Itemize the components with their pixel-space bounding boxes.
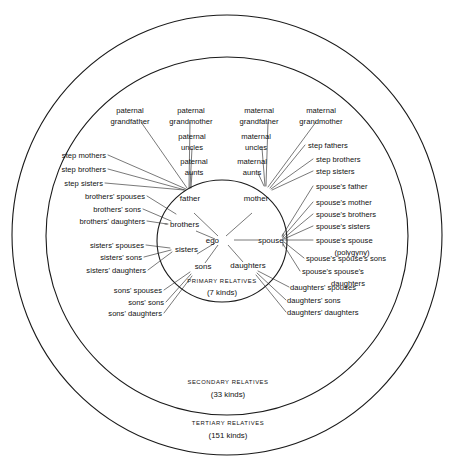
maternal-grandfather-line2: grandfather — [239, 117, 279, 126]
primary-ring-caption: PRIMARY RELATIVES (7 kinds) — [187, 278, 257, 297]
maternal-uncles-line1: maternal — [241, 132, 271, 141]
secondary-caption-count: (33 kinds) — [211, 390, 246, 399]
left-side-labels: step mothers step brothers step sisters … — [61, 151, 164, 318]
maternal-aunts-line1: maternal — [237, 157, 267, 166]
label-step-brothers-left: step brothers — [61, 165, 106, 174]
leader-brothers-sons — [143, 209, 171, 221]
leader-maternal-uncles — [262, 148, 265, 186]
label-sons-spouses: sons' spouses — [114, 286, 162, 295]
label-ssp-daughters-line1: spouse's spouse's — [302, 267, 364, 276]
label-sisters-spouses: sisters' spouses — [90, 241, 144, 250]
paternal-grandmother-line2: grandmother — [169, 117, 213, 126]
leader-brothers-spouses — [147, 196, 176, 214]
leader-maternal-grandmother — [268, 122, 316, 187]
label-sons-sons: sons' sons — [128, 298, 164, 307]
label-brothers-sons: brothers' sons — [93, 205, 141, 214]
paternal-uncles-line2: uncles — [181, 143, 203, 152]
label-spouse: spouse — [258, 236, 284, 245]
spoke-ego-mother — [226, 213, 252, 236]
kinship-svg: father mother brothers sisters sons daug… — [0, 0, 452, 468]
leader-spouses-sisters — [284, 226, 313, 239]
daughters-cluster-leaders — [256, 271, 289, 312]
label-daughters-daughters: daughters' daughters — [287, 308, 359, 317]
tertiary-caption-text: TERTIARY RELATIVES — [192, 420, 264, 426]
label-brothers: brothers — [170, 220, 199, 229]
paternal-grandfather-line2: grandfather — [110, 117, 150, 126]
primary-caption-text: PRIMARY RELATIVES — [187, 278, 257, 284]
label-step-brothers-right: step brothers — [316, 155, 361, 164]
label-mother: mother — [244, 194, 269, 203]
label-step-mothers: step mothers — [62, 151, 106, 160]
label-step-fathers: step fathers — [308, 141, 348, 150]
secondary-ring-caption: SECONDARY RELATIVES (33 kinds) — [187, 379, 268, 399]
label-spouses-sisters: spouse's sisters — [316, 222, 370, 231]
primary-labels: father mother brothers sisters sons daug… — [170, 194, 284, 271]
label-daughters: daughters — [230, 261, 265, 270]
primary-caption-count: (7 kinds) — [207, 288, 237, 297]
leader-spouses-mother — [283, 202, 313, 237]
label-step-sisters-left: step sisters — [64, 179, 103, 188]
leader-sisters-spouses — [146, 245, 170, 248]
label-ssp-sons: spouse's spouse's sons — [306, 254, 386, 263]
leader-daughters-sons — [257, 273, 286, 300]
tertiary-caption-count: (151 kinds) — [209, 431, 248, 440]
label-sisters-sons: sisters' sons — [100, 253, 142, 262]
label-daughters-spouses: daughters' spouses — [290, 283, 356, 292]
secondary-caption-text: SECONDARY RELATIVES — [187, 379, 268, 385]
label-sons-daughters: sons' daughters — [108, 309, 162, 318]
paternal-uncles-line1: paternal — [178, 132, 206, 141]
leader-spouses-father — [282, 186, 313, 236]
leader-brothers-daughters — [147, 221, 167, 224]
leader-daughters-spouses — [258, 271, 289, 287]
label-spouses-spouse: spouse's spouse — [316, 236, 373, 245]
label-daughters-sons: daughters' sons — [287, 296, 341, 305]
label-brothers-daughters: brothers' daughters — [79, 217, 145, 226]
paternal-grandfather-line1: paternal — [116, 106, 144, 115]
uncles-aunts-labels: paternal uncles maternal uncles paternal… — [178, 132, 271, 177]
spoke-ego-daughters — [228, 245, 243, 262]
maternal-grandmother-line2: grandmother — [299, 117, 343, 126]
label-sons: sons — [195, 262, 212, 271]
label-spouses-brothers: spouse's brothers — [316, 210, 376, 219]
label-spouses-father: spouse's father — [316, 182, 368, 191]
label-spouses-mother: spouse's mother — [316, 198, 372, 207]
maternal-uncles-line2: uncles — [245, 143, 267, 152]
kinship-diagram: father mother brothers sisters sons daug… — [0, 0, 452, 468]
paternal-aunts-line1: paternal — [180, 157, 208, 166]
tertiary-ring-caption: TERTIARY RELATIVES (151 kinds) — [192, 420, 264, 440]
label-sisters: sisters — [175, 245, 198, 254]
label-brothers-spouses: brothers' spouses — [85, 192, 145, 201]
paternal-grandmother-line1: paternal — [177, 106, 205, 115]
label-step-sisters-right: step sisters — [316, 167, 355, 176]
ego-spokes — [194, 213, 258, 263]
maternal-grandmother-line1: maternal — [306, 106, 336, 115]
paternal-aunts-line2: aunts — [185, 168, 204, 177]
right-side-labels: step fathers step brothers step sisters … — [287, 141, 386, 317]
maternal-aunts-line2: aunts — [243, 168, 262, 177]
grandparent-labels: paternal grandfather paternal grandmothe… — [110, 106, 343, 126]
label-father: father — [180, 194, 201, 203]
maternal-grandfather-line1: maternal — [244, 106, 274, 115]
label-ego: ego — [206, 236, 220, 245]
leader-step-fathers — [270, 145, 305, 188]
label-sisters-daughters: sisters' daughters — [86, 266, 146, 275]
leader-sisters-daughters — [148, 252, 172, 270]
